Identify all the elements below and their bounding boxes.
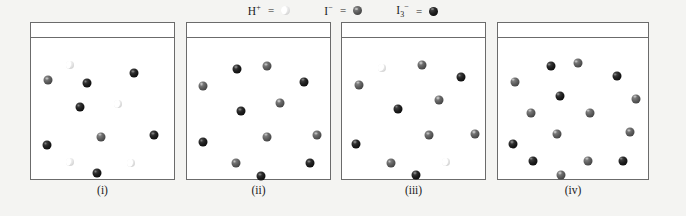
particle-triiodide bbox=[612, 72, 621, 81]
particle-iodide bbox=[386, 159, 395, 168]
particle-iodide bbox=[626, 128, 635, 137]
legend-label-triiodide: I3− bbox=[396, 3, 409, 19]
particle-triiodide bbox=[300, 77, 309, 86]
beaker-panel-4 bbox=[497, 22, 649, 180]
particle-iodide bbox=[425, 131, 434, 140]
particle-iodide bbox=[573, 59, 582, 68]
particle-triiodide bbox=[233, 65, 242, 74]
particle-proton bbox=[127, 159, 135, 167]
beaker-label-4: (iv) bbox=[497, 184, 649, 196]
particle-iodide bbox=[44, 76, 53, 85]
particle-triiodide bbox=[92, 169, 101, 178]
particle-iodide bbox=[585, 108, 594, 117]
particle-proton bbox=[66, 61, 74, 69]
triiodide-sphere-icon bbox=[429, 7, 438, 16]
particle-triiodide bbox=[412, 170, 421, 179]
particle-triiodide bbox=[618, 156, 627, 165]
particle-proton bbox=[114, 100, 122, 108]
legend-label-iodide: I− bbox=[324, 4, 333, 17]
particle-triiodide bbox=[528, 156, 537, 165]
particle-triiodide bbox=[198, 138, 207, 147]
particle-iodide bbox=[632, 94, 641, 103]
particle-triiodide bbox=[393, 104, 402, 113]
particle-iodide bbox=[263, 132, 272, 141]
particle-triiodide bbox=[555, 91, 564, 100]
particle-triiodide bbox=[305, 159, 314, 168]
particle-iodide bbox=[510, 77, 519, 86]
iodide-sphere-icon bbox=[353, 6, 362, 15]
particle-iodide bbox=[527, 108, 536, 117]
legend-item-proton: H+ = bbox=[248, 4, 290, 17]
particle-proton bbox=[66, 158, 74, 166]
particle-triiodide bbox=[237, 107, 246, 116]
particle-triiodide bbox=[456, 73, 465, 82]
beaker-solution bbox=[498, 38, 648, 179]
figure-canvas: H+ = I− = I3− = (i)(ii)(iii)(iv) bbox=[0, 0, 686, 216]
particle-triiodide bbox=[82, 79, 91, 88]
particle-triiodide bbox=[257, 172, 266, 181]
legend-equals-iodide: = bbox=[339, 5, 347, 16]
particle-triiodide bbox=[546, 62, 555, 71]
particle-proton bbox=[378, 64, 386, 72]
beaker-solution bbox=[187, 38, 330, 179]
particle-iodide bbox=[470, 129, 479, 138]
legend-equals-triiodide: = bbox=[415, 6, 423, 17]
particle-iodide bbox=[313, 131, 322, 140]
beaker-label-1: (i) bbox=[30, 184, 175, 196]
particle-iodide bbox=[231, 159, 240, 168]
beaker-label-3: (iii) bbox=[341, 184, 486, 196]
beaker-panel-1 bbox=[30, 22, 175, 180]
beaker-panel-2 bbox=[186, 22, 331, 180]
beaker-headspace bbox=[342, 23, 485, 38]
particle-iodide bbox=[97, 132, 106, 141]
particle-iodide bbox=[552, 129, 561, 138]
particle-triiodide bbox=[42, 141, 51, 150]
beaker-label-2: (ii) bbox=[186, 184, 331, 196]
legend-sub-triiodide: 3 bbox=[400, 10, 404, 19]
particle-triiodide bbox=[75, 103, 84, 112]
beaker-headspace bbox=[187, 23, 330, 38]
particle-iodide bbox=[557, 170, 566, 179]
legend-charge-proton: + bbox=[256, 3, 261, 12]
beaker-headspace bbox=[31, 23, 174, 38]
beaker-solution bbox=[31, 38, 174, 179]
particle-iodide bbox=[418, 60, 427, 69]
beaker-headspace bbox=[498, 23, 648, 38]
particle-iodide bbox=[584, 156, 593, 165]
particle-iodide bbox=[435, 96, 444, 105]
beaker-panel-3 bbox=[341, 22, 486, 180]
particle-triiodide bbox=[129, 69, 138, 78]
beaker-solution bbox=[342, 38, 485, 179]
legend-charge-iodide: − bbox=[328, 3, 333, 12]
particle-proton bbox=[442, 158, 450, 166]
particle-iodide bbox=[198, 81, 207, 90]
particle-triiodide bbox=[352, 139, 361, 148]
legend-item-iodide: I− = bbox=[324, 4, 362, 17]
particle-triiodide bbox=[509, 139, 518, 148]
legend: H+ = I− = I3− = bbox=[0, 1, 686, 21]
particle-iodide bbox=[275, 98, 284, 107]
legend-charge-triiodide: − bbox=[404, 2, 409, 11]
particle-iodide bbox=[263, 62, 272, 71]
legend-equals-proton: = bbox=[267, 5, 275, 16]
legend-label-proton: H+ bbox=[248, 4, 261, 17]
particle-iodide bbox=[355, 80, 364, 89]
proton-crescent-icon bbox=[281, 6, 290, 15]
particle-triiodide bbox=[149, 131, 158, 140]
legend-item-triiodide: I3− = bbox=[396, 3, 438, 19]
